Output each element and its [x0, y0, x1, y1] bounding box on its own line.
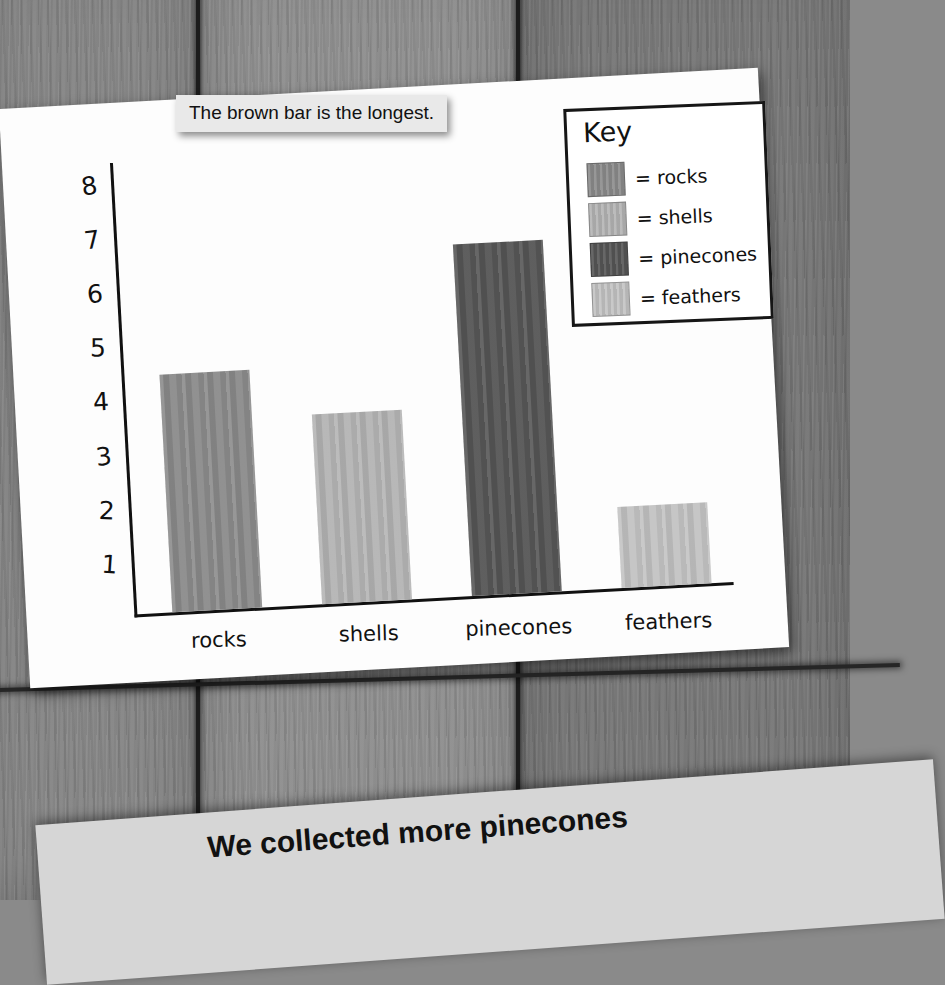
y-tick-value: 4: [92, 387, 109, 417]
y-axis-tick-label: 8: [52, 171, 98, 202]
key-entry-1: = shells: [588, 198, 713, 237]
y-axis-tick-label: 2: [70, 495, 116, 526]
y-tick-value: 7: [82, 225, 101, 256]
key-entry-0: = rocks: [586, 158, 708, 197]
key-legend-box: Key = rocks= shells= pinecones= feathers: [563, 101, 774, 327]
key-label-2: = pinecones: [638, 242, 758, 269]
y-tick-value: 5: [90, 334, 106, 363]
y-tick-value: 8: [79, 170, 99, 201]
bar-feathers[interactable]: [617, 502, 711, 588]
bar-shells[interactable]: [312, 410, 412, 604]
bar-pinecones[interactable]: [453, 240, 562, 596]
y-axis-tick-label: 4: [64, 387, 110, 418]
key-entry-2: = pinecones: [590, 236, 758, 277]
y-tick-value: 2: [98, 496, 115, 526]
y-tick-value: 1: [101, 549, 119, 579]
y-axis-tick-label: 6: [58, 279, 104, 310]
x-axis-label-rocks: rocks: [144, 626, 295, 654]
key-title: Key: [583, 115, 633, 148]
y-axis-tick-label: 1: [73, 550, 119, 581]
key-label-3: = feathers: [639, 283, 741, 309]
key-label-0: = rocks: [635, 164, 708, 189]
key-swatch-3: [591, 282, 630, 317]
x-axis-label-shells: shells: [293, 620, 444, 648]
bar-rocks[interactable]: [159, 369, 262, 612]
key-swatch-1: [588, 202, 627, 237]
tooltip: The brown bar is the longest.: [176, 95, 447, 132]
key-entry-3: = feathers: [591, 277, 741, 317]
key-label-1: = shells: [636, 204, 713, 229]
x-axis-label-feathers: feathers: [593, 607, 744, 635]
y-axis-tick-label: 3: [67, 441, 113, 472]
y-axis-tick-label: 7: [55, 225, 101, 256]
y-tick-value: 6: [86, 279, 104, 309]
bar-chart-paper: 87654321 rocksshellspineconesfeathers Ke…: [0, 68, 789, 688]
y-tick-value: 3: [94, 441, 113, 472]
caption-text: We collected more pinecones: [206, 800, 629, 865]
key-swatch-2: [590, 242, 629, 277]
key-entries: = rocks= shells= pinecones= feathers: [566, 104, 762, 112]
key-swatch-0: [586, 162, 625, 197]
y-axis-tick-label: 5: [61, 333, 107, 364]
x-axis-label-pinecones: pinecones: [443, 614, 594, 642]
